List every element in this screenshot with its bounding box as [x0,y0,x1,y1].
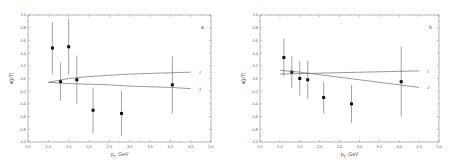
curve-label: 1 [427,69,430,74]
x-tick-label: 1.0 [277,144,283,149]
x-tick-label: 2.5 [337,144,343,149]
x-tick-label: 0.5 [25,144,31,149]
model-curve-3 [48,82,190,88]
x-tick-label: 5.0 [208,144,214,149]
y-tick-label: 1.0 [20,12,26,17]
data-point [67,45,70,48]
y-tick-label: -1.0 [251,139,259,144]
y-tick-label: -0.8 [19,127,27,132]
y-tick-label: -0.2 [19,89,27,94]
x-tick-label: 3.5 [147,144,153,149]
panel-label: a [201,24,204,30]
data-point [75,78,78,81]
y-tick-label: 0.2 [20,63,26,68]
x-tick-label: 2.5 [107,144,113,149]
x-tick-label: 3.0 [127,144,133,149]
y-axis-label: a(pT) [240,72,246,84]
data-point [171,83,174,86]
x-tick-label: 3.0 [357,144,363,149]
curve-label: 1 [199,70,202,75]
y-tick-label: 0.0 [252,76,258,81]
curve-label: 3 [199,87,202,92]
y-tick-label: 0.0 [20,76,26,81]
y-tick-label: 0.6 [20,38,26,43]
data-point [298,77,301,80]
y-tick-label: 0.4 [252,51,258,56]
x-axis-label: pT, GeV [341,151,359,159]
x-tick-label: 2.0 [317,144,323,149]
curve-label: 2 [427,85,430,90]
x-tick-label: 1.5 [297,144,303,149]
y-tick-label: 1.0 [252,12,258,17]
y-tick-label: -0.6 [251,114,259,119]
y-tick-label: 0.8 [20,25,26,30]
data-point [400,80,403,83]
y-tick-label: 0.8 [252,25,258,30]
y-tick-label: 0.6 [252,38,258,43]
x-tick-label: 4.5 [188,144,194,149]
x-tick-label: 4.0 [168,144,174,149]
x-tick-label: 0.5 [257,144,263,149]
y-tick-label: 0.2 [252,63,258,68]
x-tick-label: 5.0 [436,144,442,149]
x-tick-label: 3.5 [377,144,383,149]
chart-panel-a: 0.51.01.52.02.53.03.54.04.55.0-1.0-0.8-0… [8,12,215,159]
y-tick-label: 0.4 [20,51,26,56]
x-axis-label: pT, GeV [111,151,129,159]
panel-label: b [429,24,432,30]
data-point [306,78,309,81]
data-point [120,112,123,115]
data-point [282,56,285,59]
data-point [322,96,325,99]
y-tick-label: -0.2 [251,89,259,94]
plot-frame [28,15,211,142]
x-tick-label: 4.5 [416,144,422,149]
y-tick-label: -0.4 [251,101,259,106]
model-curve-1 [48,72,190,82]
figure: 0.51.01.52.02.53.03.54.04.55.0-1.0-0.8-0… [0,0,459,168]
data-point [92,109,95,112]
x-tick-label: 2.0 [86,144,92,149]
data-point [51,47,54,50]
x-tick-label: 1.5 [66,144,72,149]
x-tick-label: 4.0 [396,144,402,149]
y-tick-label: -0.6 [19,114,27,119]
y-tick-label: -1.0 [19,139,27,144]
data-point [350,102,353,105]
y-tick-label: -0.8 [251,127,259,132]
chart-panel-b: 0.51.01.52.02.53.03.54.04.55.0-1.0-0.8-0… [240,12,443,159]
y-tick-label: -0.4 [19,101,27,106]
y-axis-label: a(pT) [8,72,14,84]
x-tick-label: 1.0 [46,144,52,149]
